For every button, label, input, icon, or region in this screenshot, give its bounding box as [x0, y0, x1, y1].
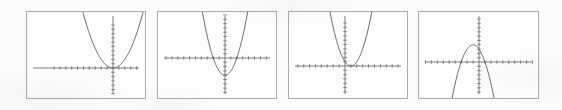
parabola-panels-figure [0, 0, 562, 110]
graph-canvas-3 [289, 12, 407, 98]
axis-ticks [166, 15, 266, 92]
graph-panel-1 [26, 11, 146, 99]
graph-canvas-4 [419, 12, 538, 98]
graph-canvas-1 [27, 12, 145, 98]
axis-ticks [298, 23, 398, 92]
parabola-curve-3 [324, 12, 379, 66]
axis-ticks [54, 25, 137, 94]
parabola-curve-1 [74, 12, 145, 68]
parabola-curve-4 [445, 45, 500, 98]
graph-panel-3 [288, 11, 408, 99]
graph-canvas-2 [158, 12, 276, 98]
graph-panel-2 [157, 11, 277, 99]
graph-panel-4 [418, 11, 539, 99]
